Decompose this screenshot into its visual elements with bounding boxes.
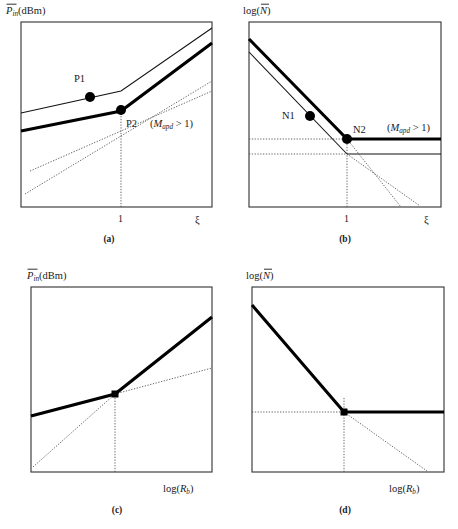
panel-b-y-axis-label: log(N) <box>243 4 271 17</box>
marker-n2 <box>342 134 352 144</box>
panel-d-plot-frame <box>252 287 444 472</box>
panel-a: Pin(dBm) P1 P2 <box>0 0 232 250</box>
x-label-tail: ) <box>190 483 194 495</box>
panel-c-x-axis-label: log(Rb) <box>163 483 194 496</box>
panel-d-plot-area <box>252 305 444 472</box>
svg-text:Pin(dBm): Pin(dBm) <box>5 5 46 18</box>
panel-c: Pin(dBm) log(Rb) (c) <box>0 255 232 529</box>
panel-b-xtick-1: 1 <box>344 213 349 224</box>
label-condition-b: (Mapd > 1) <box>387 122 430 135</box>
svg-text:log(N): log(N) <box>246 270 274 282</box>
label-p2: P2 <box>126 118 137 129</box>
dotted-extend-shallow <box>347 154 420 206</box>
svg-text:log(N): log(N) <box>243 5 271 17</box>
panel-d-caption: (d) <box>339 505 351 516</box>
panel-a-y-axis-label: Pin(dBm) <box>5 4 46 18</box>
cond-tail: > 1) <box>410 122 430 134</box>
panel-d: log(N) log(Rb) (d) <box>232 255 458 529</box>
y-label-tail: ) <box>267 5 271 17</box>
y-label-tail: ) <box>270 270 274 282</box>
y-label-tail: (dBm) <box>18 5 46 17</box>
y-label-lead: log( <box>246 270 263 282</box>
cond-sub: apd <box>162 123 173 131</box>
x-label-lead: log( <box>389 483 406 495</box>
marker-n1 <box>305 111 315 121</box>
dotted-continue-down <box>344 412 427 471</box>
label-p1: P1 <box>74 73 85 84</box>
panel-b-plot-frame <box>249 22 441 207</box>
x-label-tail: ) <box>416 483 420 495</box>
panel-a-caption: (a) <box>103 234 114 245</box>
panel-d-x-axis-label: log(Rb) <box>389 483 420 496</box>
marker-p1 <box>85 92 95 102</box>
thick-piecewise-curve <box>31 317 212 416</box>
dotted-extend-steep <box>347 139 401 207</box>
label-condition-a: (Mapd > 1) <box>150 118 193 131</box>
panel-a-xtick-1: 1 <box>118 213 123 224</box>
svg-text:Pin(dBm): Pin(dBm) <box>26 270 67 283</box>
panel-d-y-axis-label: log(N) <box>246 269 274 282</box>
marker-knee-c <box>112 391 119 398</box>
panel-b-x-axis-label: ξ <box>424 214 429 226</box>
x-label-lead: log( <box>163 483 180 495</box>
marker-knee-d <box>341 409 348 416</box>
thin-upper-curve <box>21 28 212 113</box>
label-n1: N1 <box>282 110 295 121</box>
cond-tail: > 1) <box>173 118 193 130</box>
panel-b-caption: (b) <box>339 234 351 245</box>
marker-p2 <box>116 105 126 115</box>
label-n2: N2 <box>353 124 366 135</box>
dotted-shot-noise-line <box>25 81 212 194</box>
panel-b: log(N) <box>232 0 458 250</box>
panel-c-caption: (c) <box>112 505 123 516</box>
panel-c-y-axis-label: Pin(dBm) <box>26 269 67 283</box>
y-label-lead: log( <box>243 5 260 17</box>
panel-c-plot-area <box>31 317 212 472</box>
y-label-tail: (dBm) <box>39 270 67 282</box>
figure-container: Pin(dBm) P1 P2 <box>0 0 458 529</box>
cond-sub: apd <box>399 127 410 135</box>
panel-a-x-axis-label: ξ <box>195 214 200 226</box>
thick-piecewise-curve <box>252 305 444 412</box>
